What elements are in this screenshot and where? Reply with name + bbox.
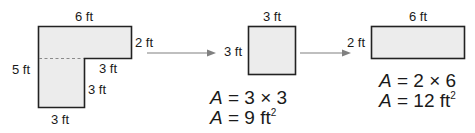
- rectangle-top-label: 6 ft: [409, 9, 427, 24]
- rectangle-left-label: 2 ft: [347, 35, 365, 50]
- rectangle-area-equation-2: A = 12 ft2: [378, 90, 456, 111]
- rectangle-area-equation-1: A = 2 × 6: [378, 70, 456, 91]
- square-area-equation-2: A = 9 ft2: [209, 107, 277, 128]
- square-figure: 3 ft 3 ft A = 3 × 3 A = 9 ft2: [209, 9, 296, 128]
- l-shape-bottom-label: 3 ft: [51, 112, 69, 127]
- rectangle-figure: 6 ft 2 ft A = 2 × 6 A = 12 ft2: [347, 9, 465, 111]
- square-left-label: 3 ft: [224, 44, 242, 59]
- l-shape-inner-horizontal-label: 3 ft: [99, 61, 117, 76]
- area-decomposition-diagram: 6 ft 2 ft 5 ft 3 ft 3 ft 3 ft 3 ft 3 ft …: [0, 0, 475, 133]
- l-shape-top-label: 6 ft: [75, 9, 93, 24]
- l-shape-right-label: 2 ft: [135, 35, 153, 50]
- l-shape-left-label: 5 ft: [12, 62, 30, 77]
- l-shape-inner-vertical-label: 3 ft: [88, 82, 106, 97]
- square-top-label: 3 ft: [263, 9, 281, 24]
- square-area-equation-1: A = 3 × 3: [209, 87, 287, 108]
- l-shape-outline: [39, 27, 132, 108]
- arrow-right-icon: [300, 50, 351, 57]
- square-outline: [249, 27, 296, 75]
- rectangle-outline: [372, 27, 465, 59]
- arrow-right-icon: [147, 50, 216, 57]
- l-shape-figure: 6 ft 2 ft 5 ft 3 ft 3 ft 3 ft: [12, 9, 153, 127]
